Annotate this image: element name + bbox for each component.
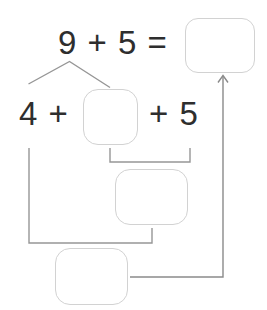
answer-box-final[interactable] [55, 248, 128, 305]
equation-text: 9 + 5 = [58, 26, 168, 59]
number-bond-branch-lines [29, 62, 111, 88]
worksheet-canvas: 9 + 5 = 4 + + 5 [0, 0, 267, 310]
decomposition-right-text: + 5 [149, 97, 199, 130]
decomposition-left-text: 4 + [19, 97, 69, 130]
answer-box-sum[interactable] [185, 18, 255, 73]
answer-box-intermediate[interactable] [115, 169, 188, 225]
result-arrowhead-icon [218, 76, 228, 83]
answer-box-decomposed-part[interactable] [83, 89, 138, 145]
bracket-connector-lines [110, 148, 190, 162]
